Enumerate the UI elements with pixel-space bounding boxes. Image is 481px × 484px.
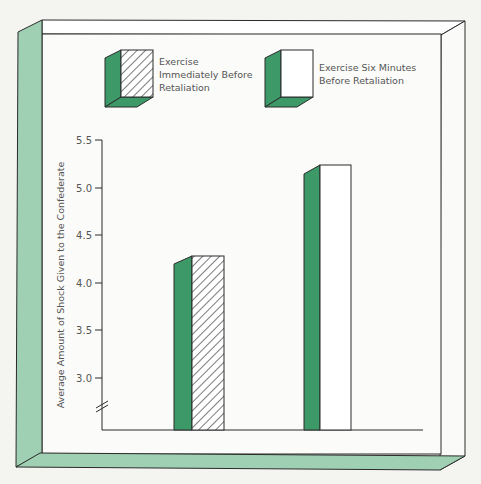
y-tick-label: 5.5	[76, 135, 92, 146]
legend-swatch-white	[281, 50, 313, 97]
y-tick-label: 3.5	[76, 325, 92, 336]
y-axis-title: Average Amount of Shock Given to the Con…	[55, 162, 66, 409]
bar-side	[304, 165, 320, 430]
frame-back-panel	[42, 20, 465, 35]
legend-swatch-hatched	[121, 50, 153, 97]
frame	[16, 20, 465, 470]
frame-floor	[16, 453, 465, 470]
chart-canvas: Exercise Immediately Before Retaliation …	[0, 0, 481, 484]
y-tick-label: 3.0	[76, 373, 92, 384]
bar-front-white	[320, 165, 351, 430]
bar-side	[174, 256, 192, 430]
frame-right-wall	[440, 21, 465, 470]
y-tick-label: 4.0	[76, 278, 92, 289]
bar-front-hatched	[192, 256, 224, 430]
frame-left-wall	[16, 20, 42, 467]
y-tick-label: 4.5	[76, 230, 92, 241]
bar-six-minutes	[304, 165, 351, 430]
y-tick-label: 5.0	[76, 183, 92, 194]
bar-immediately	[174, 256, 224, 430]
